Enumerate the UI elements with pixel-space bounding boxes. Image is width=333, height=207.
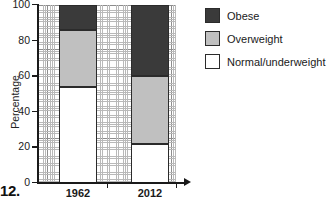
legend-swatch-overweight-icon bbox=[205, 31, 220, 46]
bar-segment-obese-1962 bbox=[59, 5, 97, 30]
legend-item-normal[interactable]: Normal/underweight bbox=[205, 50, 333, 73]
y-axis-line bbox=[37, 4, 39, 184]
y-tick-label-40: 40 bbox=[0, 105, 30, 117]
bar-segment-obese-2012 bbox=[131, 5, 169, 76]
y-tick-40 bbox=[32, 111, 38, 112]
y-tick-0 bbox=[32, 182, 38, 183]
y-tick-20 bbox=[32, 146, 38, 147]
y-tick-label-80: 80 bbox=[0, 34, 30, 46]
y-tick-label-20: 20 bbox=[0, 140, 30, 152]
x-axis-line bbox=[37, 182, 186, 184]
legend-label-normal: Normal/underweight bbox=[227, 56, 325, 68]
legend-label-obese: Obese bbox=[227, 10, 259, 22]
y-tick-label-60: 60 bbox=[0, 69, 30, 81]
x-axis-arrow-icon bbox=[184, 178, 191, 186]
bar-2012[interactable] bbox=[131, 5, 169, 183]
x-tick-label-1962: 1962 bbox=[48, 187, 108, 199]
bar-segment-overweight-1962 bbox=[59, 30, 97, 87]
y-tick-80 bbox=[32, 40, 38, 41]
legend-swatch-normal-icon bbox=[205, 54, 220, 69]
bar-segment-normal-2012 bbox=[131, 144, 169, 183]
plot-area bbox=[38, 5, 176, 183]
x-tick-label-2012: 2012 bbox=[120, 187, 180, 199]
y-tick-100 bbox=[32, 4, 38, 5]
bar-segment-overweight-2012 bbox=[131, 76, 169, 144]
legend-label-overweight: Overweight bbox=[227, 33, 283, 45]
y-tick-60 bbox=[32, 75, 38, 76]
legend: Obese Overweight Normal/underweight bbox=[205, 4, 333, 73]
y-tick-label-100: 100 bbox=[0, 0, 30, 10]
legend-item-overweight[interactable]: Overweight bbox=[205, 27, 333, 50]
legend-item-obese[interactable]: Obese bbox=[205, 4, 333, 27]
bar-1962[interactable] bbox=[59, 5, 97, 183]
y-tick-label-0: 0 bbox=[0, 176, 30, 188]
bar-segment-normal-1962 bbox=[59, 87, 97, 183]
legend-swatch-obese-icon bbox=[205, 8, 220, 23]
